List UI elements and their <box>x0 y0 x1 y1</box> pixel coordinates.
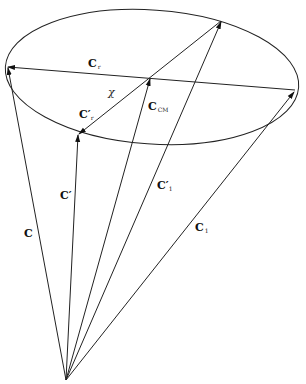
vector-c-1 <box>66 92 294 380</box>
label-c-cm: CCM <box>148 100 169 113</box>
label-c-r: Cr <box>88 57 101 70</box>
vector-c-cm <box>66 79 150 380</box>
label-c-prime-r: C′r <box>79 108 94 121</box>
label-c-prime: C′ <box>60 189 72 202</box>
vector-c-prime-1 <box>66 22 221 380</box>
label-chi: χ <box>107 86 116 99</box>
vector-c-r <box>8 67 295 90</box>
label-c: C <box>24 227 33 240</box>
label-c-prime-1: C′1 <box>157 179 172 192</box>
vector-c <box>8 68 66 380</box>
vector-c-prime-r <box>79 21 221 134</box>
cone-vector-diagram: Cr χ C′r CCM C′1 C′ C C1 <box>0 0 306 384</box>
cone-base-ellipse <box>1 0 304 154</box>
label-c-1: C1 <box>195 221 209 234</box>
